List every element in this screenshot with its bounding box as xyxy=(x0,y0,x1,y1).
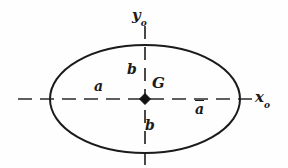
semi-axis-label-a-left: a xyxy=(94,79,103,93)
y-axis-label-text: y xyxy=(132,6,141,24)
centroid-label-g: G xyxy=(152,76,165,91)
semi-axis-label-b-top: b xyxy=(127,62,137,76)
semi-axis-label-a-right: a xyxy=(195,100,204,116)
x-axis-label-text: x xyxy=(255,88,264,106)
ellipse-figure: yo xo b b a a G xyxy=(0,0,288,168)
semi-axis-label-b-bottom: b xyxy=(145,118,155,132)
y-axis-label-subscript: o xyxy=(141,18,147,28)
x-axis-label-subscript: o xyxy=(264,100,270,110)
y-axis-label: yo xyxy=(132,8,147,26)
x-axis-label: xo xyxy=(255,90,270,108)
centroid-marker-icon xyxy=(140,94,151,105)
